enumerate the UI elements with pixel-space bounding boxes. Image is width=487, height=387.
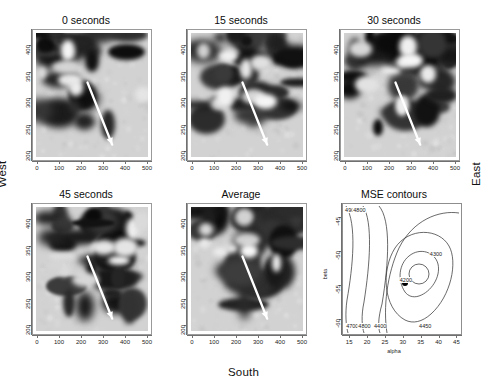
mse-y-axis-line <box>341 203 342 335</box>
y-tick-label: 350 <box>180 246 186 256</box>
cloud-mass <box>280 101 302 111</box>
mse-y-tick-label: -60 <box>335 319 341 328</box>
cloud-grain <box>212 155 217 157</box>
axis-label-south: South <box>0 366 487 378</box>
axis-label-west: West <box>0 161 8 188</box>
x-tick-label: 200 <box>76 165 86 171</box>
cloud-mass <box>375 33 395 53</box>
y-tick-label: 200 <box>180 151 186 161</box>
mse-x-tick-label: 15 <box>346 339 353 345</box>
cloud-grain <box>55 305 60 310</box>
cloud-image <box>36 33 148 157</box>
contour-label: 4200 <box>399 277 412 283</box>
x-tick-label: 100 <box>54 339 64 345</box>
image-frame <box>32 203 152 335</box>
x-tick-label: 300 <box>253 165 263 171</box>
panel-title-45-seconds: 45 seconds <box>10 188 162 200</box>
cloud-grain <box>79 146 82 149</box>
cloud-grain <box>301 71 303 77</box>
cloud-grain <box>194 254 200 260</box>
x-tick-label: 400 <box>428 165 438 171</box>
cloud-grain <box>300 306 303 309</box>
x-tick-label: 100 <box>54 165 64 171</box>
cloud-grain <box>112 154 116 157</box>
cloud-grain <box>452 151 456 157</box>
cloud-grain <box>281 301 284 304</box>
cloud-mass <box>214 33 226 42</box>
cloud-grain <box>293 142 299 148</box>
mse-x-axis: 15202530354045 <box>342 335 462 349</box>
x-tick-label: 500 <box>297 165 307 171</box>
cloud-grain <box>136 251 143 258</box>
cloud-grain <box>293 256 296 259</box>
cloud-gap <box>72 273 99 287</box>
image-frame <box>187 203 307 335</box>
contour-label: 4800 <box>358 323 371 329</box>
cloud-gap <box>240 244 257 258</box>
cloud-grain <box>131 91 134 94</box>
cloud-grain <box>446 147 448 149</box>
cloud-grain <box>289 287 293 291</box>
y-tick-label: 200 <box>333 151 339 161</box>
cloud-grain <box>417 148 423 154</box>
cloud-grain <box>345 51 347 53</box>
cloud-grain <box>43 277 46 280</box>
y-tick-label: 400 <box>180 219 186 229</box>
cloud-grain <box>146 236 148 240</box>
panel-title-average: Average <box>165 188 317 200</box>
cloud-mass <box>38 229 67 246</box>
x-tick-label: 0 <box>190 339 193 345</box>
panel-average: Average0100200300400500200250300350400 <box>165 188 317 360</box>
contour-label: 4400 <box>374 323 387 329</box>
y-tick-label: 250 <box>333 125 339 135</box>
mse-y-tick-label: -50 <box>335 251 341 260</box>
x-tick-label: 100 <box>209 339 219 345</box>
panel-title-15-seconds: 15 seconds <box>165 14 317 26</box>
y-axis: 200250300350400 <box>326 29 340 161</box>
cloud-grain <box>196 296 199 299</box>
mse-y-tick-label: -55 <box>335 285 341 294</box>
cloud-grain <box>302 114 303 119</box>
cloud-grain <box>62 142 67 147</box>
cloud-grain <box>200 275 205 280</box>
cloud-mass <box>63 289 75 317</box>
cloud-grain <box>93 144 97 148</box>
x-tick-label: 200 <box>231 339 241 345</box>
cloud-gap <box>199 238 210 248</box>
cloud-grain <box>105 146 110 151</box>
cloud-grain <box>73 319 78 324</box>
cloud-grain <box>107 69 113 75</box>
mse-x-tick-label: 25 <box>382 339 389 345</box>
cloud-grain <box>401 151 405 155</box>
cloud-grain <box>42 90 47 95</box>
cloud-grain <box>96 113 101 118</box>
cloud-grain <box>145 106 148 113</box>
cloud-grain <box>421 140 428 147</box>
y-axis-line <box>31 203 32 335</box>
x-axis: 0100200300400500 <box>187 161 307 175</box>
cloud-grain <box>239 324 245 330</box>
cloud-grain <box>400 131 407 138</box>
cloud-grain <box>126 126 131 131</box>
cloud-grain <box>121 90 127 96</box>
x-axis-line <box>187 335 307 336</box>
cloud-grain <box>301 93 303 99</box>
y-tick-label: 250 <box>180 299 186 309</box>
cloud-mass <box>264 34 285 48</box>
y-tick-label: 350 <box>180 72 186 82</box>
cloud-gap <box>396 96 409 116</box>
cloud-grain <box>103 98 106 101</box>
x-axis: 0100200300400500 <box>32 161 152 175</box>
panel-title-30-seconds: 30 seconds <box>318 14 470 26</box>
cloud-mass <box>76 292 93 321</box>
cloud-image <box>191 207 303 331</box>
mse-contour-lines <box>343 204 461 334</box>
mse-plot-area: 49004800430042004700480044004450 <box>342 203 462 335</box>
cloud-grain <box>294 292 298 296</box>
y-tick-label: 300 <box>333 98 339 108</box>
y-tick-label: 350 <box>333 72 339 82</box>
y-tick-label: 400 <box>333 45 339 55</box>
cloud-grain <box>371 71 375 75</box>
cloud-grain <box>58 152 63 157</box>
cloud-grain <box>115 60 117 62</box>
